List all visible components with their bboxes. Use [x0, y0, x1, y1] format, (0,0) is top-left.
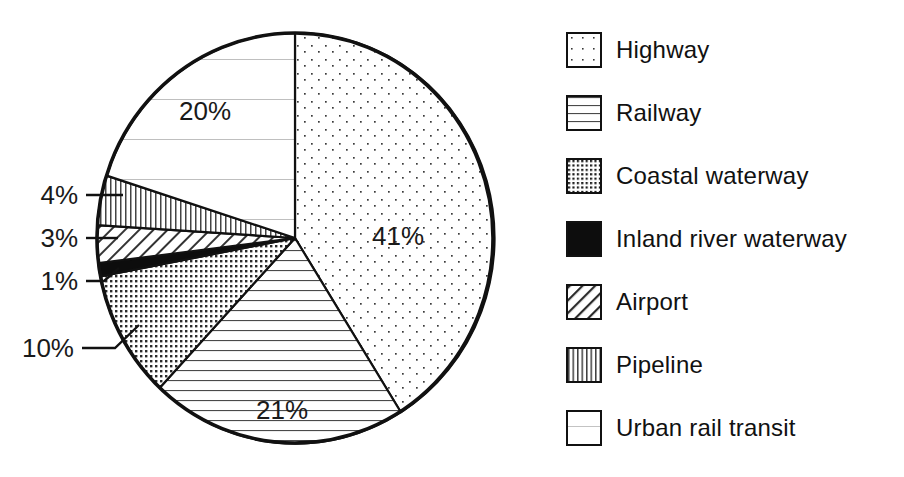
legend-item-coastal-waterway[interactable]: Coastal waterway [566, 144, 904, 207]
swatch-highway-icon [566, 32, 602, 68]
pie-chart-canvas: 41% 21% 20% 4% 3% 1% 10% [0, 0, 560, 477]
legend-label-urban-rail-transit: Urban rail transit [616, 416, 796, 440]
legend-label-airport: Airport [616, 290, 688, 314]
legend-item-railway[interactable]: Railway [566, 81, 904, 144]
swatch-coastal-waterway-icon [566, 158, 602, 194]
swatch-pipeline-icon [566, 347, 602, 383]
legend-item-highway[interactable]: Highway [566, 18, 904, 81]
swatch-inland-river-waterway-icon [566, 221, 602, 257]
pie-label-inland-river-waterway: 1% [40, 266, 78, 296]
legend-item-airport[interactable]: Airport [566, 270, 904, 333]
pie-label-pipeline: 4% [40, 180, 78, 210]
legend: Highway Railway Coastal waterway Inland … [566, 18, 904, 459]
swatch-urban-rail-transit-icon [566, 410, 602, 446]
pie-label-highway: 41% [372, 221, 424, 251]
pie-label-railway: 21% [256, 395, 308, 425]
swatch-airport-icon [566, 284, 602, 320]
pie-chart-figure: 41% 21% 20% 4% 3% 1% 10% Highway [0, 0, 904, 477]
legend-label-inland-river-waterway: Inland river waterway [616, 227, 847, 251]
pie-label-urban-rail-transit: 20% [179, 96, 231, 126]
legend-label-pipeline: Pipeline [616, 353, 703, 377]
pie-svg: 41% 21% 20% 4% 3% 1% 10% [0, 0, 560, 477]
legend-label-highway: Highway [616, 38, 709, 62]
legend-label-coastal-waterway: Coastal waterway [616, 164, 809, 188]
legend-item-inland-river-waterway[interactable]: Inland river waterway [566, 207, 904, 270]
pie-label-coastal-waterway: 10% [22, 333, 74, 363]
swatch-railway-icon [566, 95, 602, 131]
pie-label-airport: 3% [40, 223, 78, 253]
legend-item-urban-rail-transit[interactable]: Urban rail transit [566, 396, 904, 459]
legend-item-pipeline[interactable]: Pipeline [566, 333, 904, 396]
legend-label-railway: Railway [616, 101, 701, 125]
